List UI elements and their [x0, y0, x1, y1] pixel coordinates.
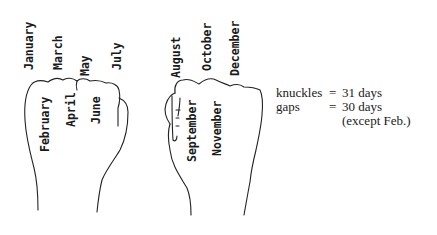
legend-equals: =	[329, 86, 336, 100]
legend-row-exception: (except Feb.)	[276, 114, 436, 128]
month-label-january: January	[24, 22, 36, 70]
month-label-april: April	[66, 92, 78, 127]
month-label-may: May	[80, 55, 92, 76]
month-label-june: June	[91, 96, 103, 124]
legend-label: gaps	[276, 100, 300, 114]
month-label-october: October	[202, 23, 214, 71]
month-label-march: March	[53, 35, 65, 70]
month-label-august: August	[171, 36, 183, 78]
legend-value: 31 days	[342, 86, 382, 100]
legend-value: 30 days	[342, 100, 382, 114]
month-label-september: September	[187, 100, 199, 162]
knuckle-mnemonic-diagram: January March May July February April Ju…	[0, 0, 437, 235]
month-label-february: February	[40, 97, 52, 152]
month-label-december: December	[230, 21, 242, 76]
legend: knuckles = 31 days gaps = 30 days (excep…	[276, 86, 436, 128]
legend-row-knuckles: knuckles = 31 days	[276, 86, 436, 100]
legend-label: knuckles	[276, 86, 322, 100]
month-label-july: July	[112, 42, 124, 70]
legend-equals: =	[329, 100, 336, 114]
month-label-november: November	[212, 101, 224, 156]
legend-note: (except Feb.)	[342, 114, 411, 128]
legend-row-gaps: gaps = 30 days	[276, 100, 436, 114]
